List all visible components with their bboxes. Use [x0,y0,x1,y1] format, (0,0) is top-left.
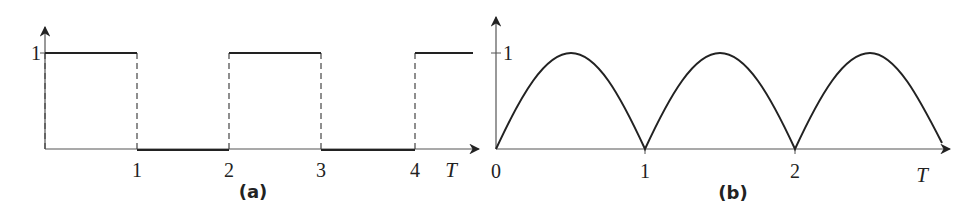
panel-b-y-tick-label: 1 [503,42,513,64]
panel-b-x-tick-0: 0 [491,160,501,182]
panel-b-caption: (b) [718,182,747,203]
panel-b-curve [496,53,942,149]
panel-a-dashed-transitions [45,53,415,149]
panel-b-x-tick-2: 2 [790,160,800,182]
panel-a-x-tick-4: 4 [410,159,420,181]
panel-a-x-tick-1: 1 [132,159,142,181]
panel-a-y-tick-label: 1 [31,42,41,64]
panel-a-wave-segments [45,53,473,150]
figure: 1 1 2 3 4 T (a) [0,0,975,217]
panel-a-square-wave: 1 1 2 3 4 T (a) [31,27,479,202]
panel-a-x-tick-2: 2 [224,159,234,181]
panel-b-x-ticks [645,149,795,154]
panel-a-x-tick-3: 3 [316,159,326,181]
panel-a-x-axis-label: T [445,158,458,182]
panel-b-x-axis-label: T [916,163,929,187]
panel-b-x-tick-1: 1 [640,160,650,182]
panel-b-rectified-sine: 1 0 1 2 T (b) [491,17,950,203]
panel-a-caption: (a) [239,181,268,202]
